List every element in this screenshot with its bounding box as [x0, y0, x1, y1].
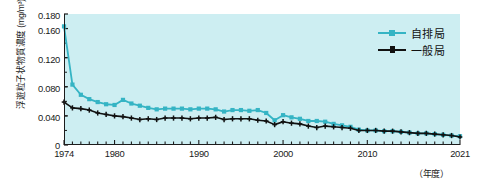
chart-figure: 0.180 0.160 0.120 0.080 0.040 0 浮遊粒子状物質濃… [0, 0, 481, 192]
legend-swatch-cyan [378, 28, 406, 38]
legend-swatch-black [378, 45, 406, 55]
legend-label: 一般局 [411, 42, 445, 58]
legend-item-ippankyoku: 一般局 [378, 41, 445, 58]
legend-item-jihaikyoku: 自排局 [378, 24, 445, 41]
legend-label: 自排局 [411, 25, 445, 41]
chart-legend: 自排局 一般局 [378, 24, 445, 58]
